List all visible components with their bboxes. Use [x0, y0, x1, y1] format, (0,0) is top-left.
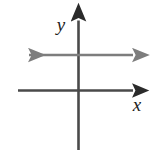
graph-canvas: y x: [0, 0, 159, 150]
x-axis-label: x: [132, 94, 142, 115]
y-axis-label: y: [55, 14, 66, 35]
coordinate-plane-figure: y x: [0, 0, 159, 150]
